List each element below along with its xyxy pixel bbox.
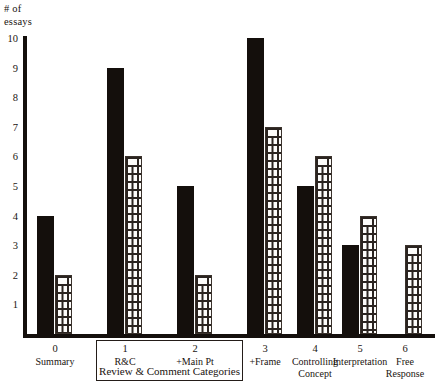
x-category-number: 6 (360, 343, 446, 356)
bar--main-pt-solid (177, 186, 194, 334)
bar--frame-brick (265, 127, 282, 334)
review-comment-group-label: Review & Comment Categories (96, 365, 243, 378)
bar--frame-solid (247, 38, 264, 334)
bar-summary-brick (55, 275, 72, 334)
bar-r-c-brick (125, 156, 142, 334)
bar-r-c-solid (107, 68, 124, 334)
bar-controlling-concept-brick (315, 156, 332, 334)
x-category-free-response: 6Free Response (360, 343, 446, 381)
bars-layer (0, 0, 446, 390)
bar-chart: # ofessays 12345678910 0Summary1R&C2+Mai… (0, 0, 446, 390)
bar-summary-solid (37, 216, 54, 334)
bar-free-response-brick (405, 245, 422, 334)
x-category-name: Free Response (360, 356, 446, 381)
bar-interpretation-brick (360, 216, 377, 334)
bar-interpretation-solid (342, 245, 359, 334)
bar-controlling-concept-solid (297, 186, 314, 334)
bar--main-pt-brick (195, 275, 212, 334)
